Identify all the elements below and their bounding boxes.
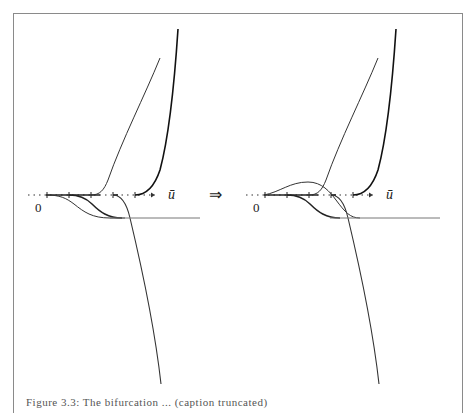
origin-label: 0 — [35, 200, 42, 215]
axis-label-u-bar: ū — [386, 187, 393, 202]
curve-thin-upper — [91, 58, 160, 195]
curve-descending — [113, 195, 161, 384]
implies-arrow-icon: ⇒ — [209, 186, 222, 203]
figure-caption: Figure 3.3: The bifurcation ... (caption… — [26, 396, 268, 408]
left-panel: 0 ū — [28, 29, 200, 384]
right-panel: 0 ū — [246, 29, 440, 384]
axis-label-u-bar: ū — [168, 187, 175, 202]
origin-label: 0 — [253, 200, 260, 215]
curve-hump — [264, 182, 360, 218]
curve-thick-upper — [135, 29, 178, 195]
